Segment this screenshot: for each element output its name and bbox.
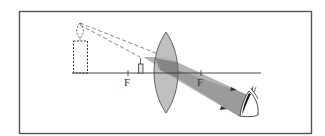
focal-label-right: F <box>197 76 203 88</box>
focal-label-left: F <box>124 76 130 88</box>
magnifier-diagram: F F <box>0 0 325 136</box>
object-candle <box>139 64 144 73</box>
